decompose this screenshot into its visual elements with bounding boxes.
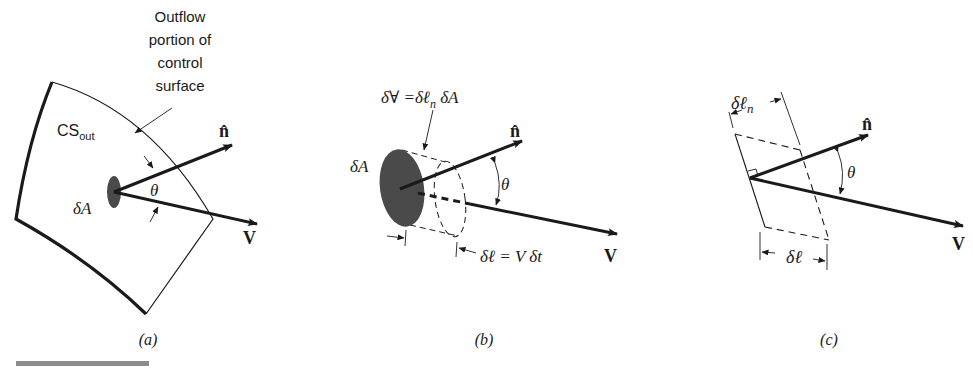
length-equation: δℓ = V δt: [480, 247, 543, 266]
normal-length-label: δℓn: [731, 93, 753, 116]
parallelogram-bottom: [765, 227, 829, 240]
control-surface-thick-edge: [16, 82, 146, 314]
volume-leader: [424, 110, 433, 150]
panel-a: Outflow portion of control surface CSout…: [16, 8, 257, 366]
normal-label: n̂: [862, 114, 872, 134]
bottom-rule: [16, 361, 149, 366]
angle-label: θ: [150, 181, 158, 200]
area-label: δA: [73, 199, 92, 218]
parallelogram-top: [735, 134, 800, 150]
cylinder-bottom-edge: [410, 225, 458, 236]
velocity-vector: [750, 178, 963, 226]
cs-out-label: CSout: [57, 122, 95, 142]
normal-length-arrow-right: [770, 99, 781, 102]
angle-arrow-top: [144, 156, 153, 168]
callout-line-2: portion of: [149, 31, 212, 48]
velocity-vector-hidden: [418, 193, 470, 204]
panel-b: δA δ∀ =δℓn δA n̂ V θ δℓ = V δt (b): [350, 88, 617, 349]
callout-line-1: Outflow: [155, 8, 206, 25]
velocity-vector: [470, 204, 617, 234]
caption-b: (b): [475, 331, 494, 349]
caption-a: (a): [139, 331, 158, 349]
normal-vector: [114, 145, 232, 192]
angle-label: θ: [501, 175, 509, 194]
normal-length-ext-right: [781, 92, 800, 145]
control-surface-figure: Outflow portion of control surface CSout…: [0, 0, 973, 375]
panel-c: δℓn n̂ V θ δℓ (c): [729, 92, 965, 349]
velocity-label: V: [952, 234, 965, 254]
angle-label: θ: [847, 163, 855, 182]
normal-label: n̂: [510, 121, 520, 141]
callout-leader: [135, 108, 172, 133]
velocity-label: V: [243, 228, 256, 248]
length-arrow-right: [813, 259, 825, 261]
control-surface-outline: [52, 82, 213, 314]
cylinder-end-face: [430, 159, 470, 238]
normal-label: n̂: [219, 121, 229, 141]
length-tick-left: [405, 230, 406, 246]
normal-length-ext-left: [729, 112, 733, 128]
area-label: δA: [350, 157, 369, 176]
velocity-label: V: [604, 246, 617, 266]
angle-arrow-bottom: [150, 207, 158, 222]
callout-line-4: surface: [155, 77, 204, 94]
length-arrow-right: [459, 248, 476, 253]
length-arrow-left: [387, 236, 404, 238]
callout-line-3: control: [157, 54, 202, 71]
length-label: δℓ: [786, 247, 802, 267]
velocity-vector: [114, 192, 257, 224]
angle-arc: [495, 163, 499, 205]
angle-arc: [838, 152, 843, 194]
length-arrow-left: [762, 252, 775, 253]
caption-c: (c): [820, 331, 838, 349]
volume-equation: δ∀ =δℓn δA: [381, 88, 459, 111]
length-tick-right: [456, 242, 457, 257]
